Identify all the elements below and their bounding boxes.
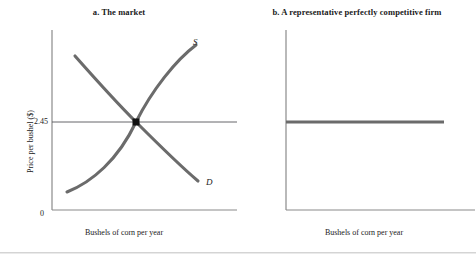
- equilibrium-point-marker: [133, 119, 140, 126]
- plot-area-firm: [238, 0, 476, 248]
- panel-firm: b. A representative perfectly competitiv…: [238, 0, 476, 248]
- origin-label-market: 0: [22, 209, 44, 218]
- x-axis-title-firm: Bushels of corn per year: [238, 228, 476, 237]
- bottom-divider-shadow: [0, 253, 476, 254]
- panel-market: a. The market Price per bushel ($) 2.45 …: [0, 0, 238, 248]
- y-tick-label-price-market: 2.45: [22, 117, 48, 126]
- demand-curve-label: D: [206, 177, 213, 187]
- figure-container: a. The market Price per bushel ($) 2.45 …: [0, 0, 476, 263]
- supply-curve-label: S: [193, 37, 198, 47]
- x-axis-title-market: Bushels of corn per year: [0, 228, 238, 237]
